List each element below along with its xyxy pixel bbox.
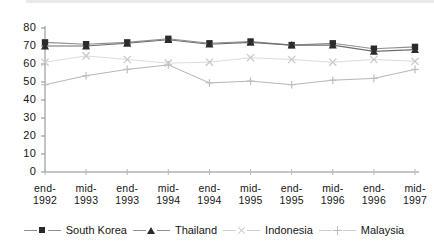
legend-line-right xyxy=(343,230,356,231)
line-chart: 01020304050607080end-1992mid-1993end-199… xyxy=(0,0,434,247)
x-axis-label-end-1994: end-1994 xyxy=(187,182,231,206)
chart-axes xyxy=(45,26,419,172)
legend-item-thailand[interactable]: Thailand xyxy=(133,221,223,239)
chart-legend: South KoreaThailandIndonesiaMalaysia xyxy=(0,219,434,241)
legend-marker-square-icon xyxy=(37,225,48,236)
legend-item-malaysia[interactable]: Malaysia xyxy=(319,221,410,239)
x-axis-label-end-1993: end-1993 xyxy=(105,182,149,206)
series-indonesia xyxy=(41,52,418,66)
y-axis-label-0: 0 xyxy=(14,166,36,177)
legend-marker-plus-icon xyxy=(332,225,343,236)
x-axis-label-mid-1995: mid-1995 xyxy=(229,182,273,206)
legend-marker-cross-icon xyxy=(236,225,247,236)
y-axis-label-50: 50 xyxy=(14,76,36,87)
y-axis-label-80: 80 xyxy=(14,22,36,33)
y-axis-label-30: 30 xyxy=(14,112,36,123)
legend-line-right xyxy=(247,230,260,231)
legend-label: Indonesia xyxy=(260,225,319,236)
y-axis-ticks xyxy=(41,28,45,172)
legend-label: Thailand xyxy=(170,225,223,236)
chart-plot-area xyxy=(0,0,434,247)
y-axis-label-10: 10 xyxy=(14,148,36,159)
x-axis-label-end-1995: end-1995 xyxy=(270,182,314,206)
x-axis-label-mid-1994: mid-1994 xyxy=(146,182,190,206)
x-axis-label-mid-1996: mid-1996 xyxy=(311,182,355,206)
y-axis-label-70: 70 xyxy=(14,40,36,51)
y-axis-label-60: 60 xyxy=(14,58,36,69)
legend-line-left xyxy=(319,230,332,231)
legend-line-left xyxy=(133,230,146,231)
legend-marker-triangle-icon xyxy=(146,225,157,236)
legend-line-right xyxy=(48,230,61,231)
y-axis-label-20: 20 xyxy=(14,130,36,141)
x-axis-label-end-1996: end-1996 xyxy=(352,182,396,206)
x-axis-label-mid-1997: mid-1997 xyxy=(393,182,434,206)
legend-line-left xyxy=(24,230,37,231)
y-axis-label-40: 40 xyxy=(14,94,36,105)
series-malaysia xyxy=(41,61,419,88)
x-axis-label-end-1992: end-1992 xyxy=(23,182,67,206)
legend-item-south-korea[interactable]: South Korea xyxy=(24,221,133,239)
legend-line-right xyxy=(157,230,170,231)
series-thailand xyxy=(41,36,419,55)
legend-label: South Korea xyxy=(61,225,133,236)
legend-label: Malaysia xyxy=(356,225,410,236)
x-axis-label-mid-1993: mid-1993 xyxy=(64,182,108,206)
legend-line-left xyxy=(223,230,236,231)
legend-item-indonesia[interactable]: Indonesia xyxy=(223,221,319,239)
